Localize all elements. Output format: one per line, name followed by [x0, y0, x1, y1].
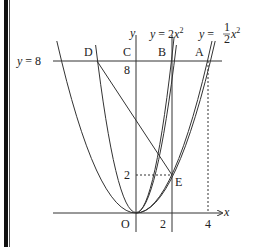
parabola-diagram: y = 8 D C 8 B A y y = 2x2 y = 1 2 x2 2 E…	[0, 0, 256, 247]
segment-d-e	[97, 61, 172, 175]
x-axis-label: x	[223, 205, 230, 219]
tick-label-y-2: 2	[124, 168, 130, 182]
tick-label-x-4: 4	[205, 217, 211, 231]
tick-label-x-2: 2	[160, 217, 166, 231]
y-axis-label: y	[129, 26, 136, 40]
curve-y-2x2-right-branch	[136, 38, 174, 213]
point-label-e: E	[175, 175, 182, 189]
origin-label: O	[121, 217, 130, 231]
point-label-b: B	[158, 45, 166, 59]
curve-label-half-den: 2	[224, 32, 230, 46]
label-y-equals-8: y = 8	[16, 54, 41, 68]
curve-label-half-var: x2	[230, 26, 240, 41]
point-label-c: C	[123, 45, 131, 59]
curve-label-half-x2: y =	[198, 27, 214, 41]
point-label-d: D	[84, 45, 93, 59]
tick-label-y-8: 8	[124, 63, 130, 77]
curve-label-2x2: y = 2x2	[149, 26, 183, 41]
point-label-a: A	[195, 45, 204, 59]
